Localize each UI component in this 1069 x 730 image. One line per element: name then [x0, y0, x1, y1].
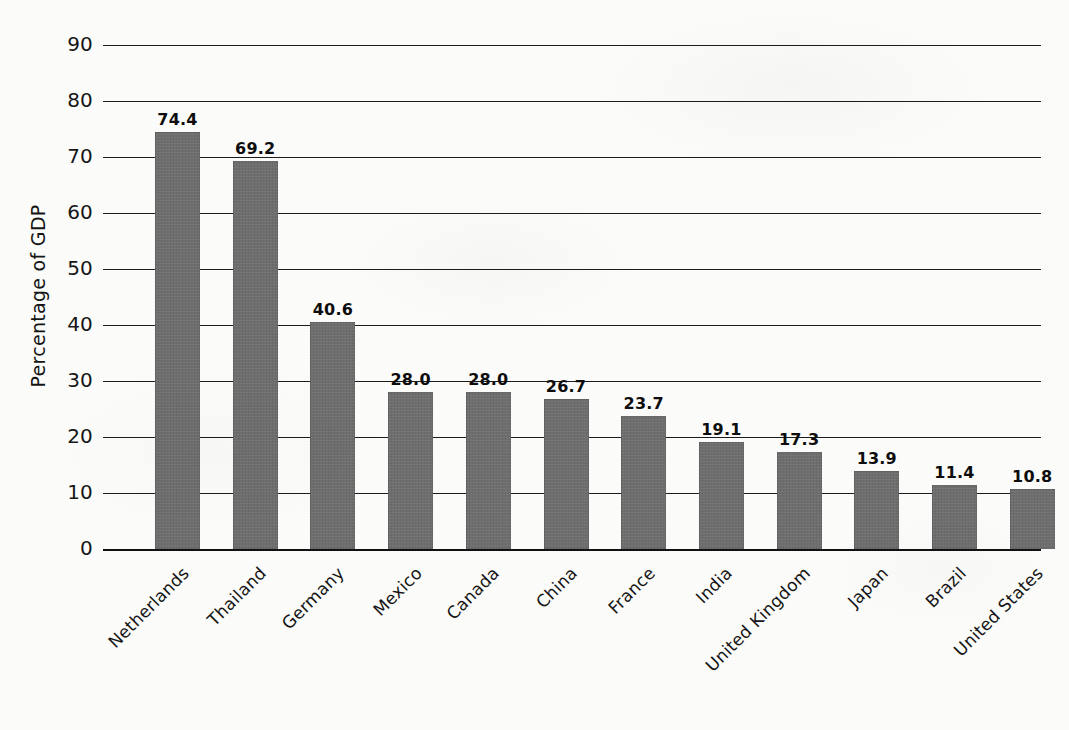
bar-value-label: 10.8 — [995, 467, 1069, 486]
x-axis-line — [103, 549, 1041, 551]
bar[interactable] — [854, 471, 899, 549]
y-axis-tick — [103, 437, 132, 438]
x-axis-category-label: Canada — [348, 563, 504, 719]
bar-value-label: 19.1 — [684, 420, 759, 439]
x-axis-category-label: Mexico — [270, 563, 426, 719]
chart-page: 9080706050403020100 74.469.240.628.028.0… — [0, 0, 1069, 730]
x-axis-category-label: United Kingdom — [659, 563, 815, 719]
bar-value-label: 74.4 — [140, 110, 215, 129]
bar[interactable] — [544, 399, 589, 549]
bar-value-label: 40.6 — [295, 300, 370, 319]
y-axis-tick-label: 50 — [47, 258, 93, 278]
bar-value-label: 13.9 — [839, 449, 914, 468]
y-axis-tick — [103, 493, 132, 494]
x-axis-category-label: Japan — [736, 563, 892, 719]
y-axis-tick — [103, 213, 132, 214]
bar[interactable] — [699, 442, 744, 549]
bar-value-label: 23.7 — [606, 394, 681, 413]
bar-value-label: 26.7 — [529, 377, 604, 396]
x-axis-category-label: Netherlands — [37, 563, 193, 719]
gridline — [130, 45, 1041, 46]
x-axis-category-label: China — [426, 563, 582, 719]
y-axis-tick-label: 40 — [47, 314, 93, 334]
bar[interactable] — [777, 452, 822, 549]
x-axis-category-label: Thailand — [115, 563, 271, 719]
bar-value-label: 28.0 — [373, 370, 448, 389]
y-axis-tick-label: 90 — [47, 34, 93, 54]
y-axis-tick-label: 60 — [47, 202, 93, 222]
x-axis-category-label: France — [503, 563, 659, 719]
x-axis-category-label: Germany — [192, 563, 348, 719]
y-axis-tick-label: 10 — [47, 482, 93, 502]
gridline — [130, 101, 1041, 102]
y-axis-tick — [103, 381, 132, 382]
bar[interactable] — [155, 132, 200, 549]
y-axis-tick — [103, 325, 132, 326]
y-axis-tick — [103, 269, 132, 270]
y-axis-tick — [103, 101, 132, 102]
bar[interactable] — [1010, 489, 1055, 549]
bar[interactable] — [310, 322, 355, 549]
bar-value-label: 69.2 — [218, 139, 293, 158]
y-axis-tick — [103, 157, 132, 158]
bar[interactable] — [388, 392, 433, 549]
x-axis-category-label: India — [581, 563, 737, 719]
y-axis-tick-label: 80 — [47, 90, 93, 110]
x-axis-category-label: United States — [892, 563, 1048, 719]
y-axis-tick-label: 70 — [47, 146, 93, 166]
x-axis-category-label: Brazil — [814, 563, 970, 719]
bar[interactable] — [932, 485, 977, 549]
y-axis-tick — [103, 45, 132, 46]
bar-chart: 9080706050403020100 74.469.240.628.028.0… — [0, 0, 1069, 730]
bar[interactable] — [466, 392, 511, 549]
bar[interactable] — [233, 161, 278, 549]
y-axis-tick-label: 0 — [47, 538, 93, 558]
y-axis-tick-label: 20 — [47, 426, 93, 446]
y-axis-tick-label: 30 — [47, 370, 93, 390]
bar-value-label: 28.0 — [451, 370, 526, 389]
bar-value-label: 11.4 — [917, 463, 992, 482]
bar-value-label: 17.3 — [762, 430, 837, 449]
bar[interactable] — [621, 416, 666, 549]
y-axis-title: Percentage of GDP — [27, 196, 49, 396]
